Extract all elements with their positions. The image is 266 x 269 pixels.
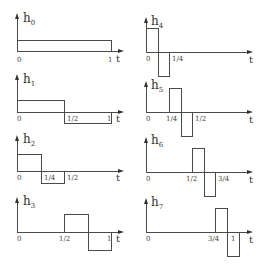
origin-label: 0 xyxy=(146,115,150,123)
plot-label: h0 xyxy=(23,11,35,27)
origin-label: 0 xyxy=(17,174,21,182)
tick-label: 1/4 xyxy=(166,115,178,123)
plot-h0: h0 0 1 t xyxy=(15,11,124,64)
t-axis-label: t xyxy=(116,113,120,124)
plot-h5: h5 0 1/4 1/2 t xyxy=(144,78,253,136)
t-axis-label: t xyxy=(249,114,253,125)
y-axis-arrow-icon xyxy=(144,81,148,87)
tick-label: 1/4 xyxy=(172,55,184,63)
plot-label: h2 xyxy=(23,132,35,148)
tick-label: 3/4 xyxy=(218,175,230,183)
tick-label: 1 xyxy=(107,115,111,123)
tick-label: 1 xyxy=(108,56,112,64)
plot-h2: h2 0 1/4 1/2 t xyxy=(15,132,124,183)
tick-label: 3/4 xyxy=(208,235,220,243)
plot-h7: h7 0 3/4 1 t xyxy=(144,195,253,256)
origin-label: 0 xyxy=(17,115,21,123)
plot-label: h6 xyxy=(151,133,164,149)
plot-label: h1 xyxy=(23,72,35,88)
y-axis-arrow-icon xyxy=(144,17,148,23)
t-axis-label: t xyxy=(249,174,253,185)
plot-label: h4 xyxy=(151,14,164,30)
plot-label: h3 xyxy=(23,194,35,210)
plot-h3: h3 0 1/2 1 t xyxy=(15,194,124,250)
plot-h6: h6 0 1/2 3/4 t xyxy=(144,133,253,196)
y-axis-arrow-icon xyxy=(144,137,148,143)
origin-label: 0 xyxy=(146,235,150,243)
y-axis-arrow-icon xyxy=(15,197,19,203)
tick-label: 1/2 xyxy=(59,235,70,243)
plot-label: h7 xyxy=(151,195,163,211)
origin-label: 0 xyxy=(146,55,150,63)
tick-label: 1 xyxy=(107,235,111,243)
t-axis-label: t xyxy=(116,233,120,244)
plot-h4: h4 0 1/4 t xyxy=(144,14,253,76)
y-axis-arrow-icon xyxy=(15,74,19,80)
t-axis-label: t xyxy=(116,172,120,183)
origin-label: 0 xyxy=(17,56,21,64)
tick-label: 1/4 xyxy=(44,174,56,182)
tick-label: 1/2 xyxy=(195,115,206,123)
plot-h1: h1 0 1/2 1 t xyxy=(15,72,124,124)
waveform xyxy=(17,154,64,183)
tick-label: 1 xyxy=(231,235,235,243)
origin-label: 0 xyxy=(17,235,21,243)
haar-basis-diagram: h0 0 1 t h1 0 1/2 1 t h2 0 1/4 1/2 t h3 xyxy=(0,0,266,269)
plot-label: h5 xyxy=(151,78,163,94)
tick-label: 1/2 xyxy=(186,175,197,183)
waveform xyxy=(17,40,111,51)
tick-label: 1/2 xyxy=(67,174,78,182)
y-axis-arrow-icon xyxy=(15,135,19,141)
t-axis-label: t xyxy=(249,234,253,245)
y-axis-arrow-icon xyxy=(144,198,148,204)
y-axis-arrow-icon xyxy=(15,13,19,19)
origin-label: 0 xyxy=(146,175,150,183)
t-axis-label: t xyxy=(249,54,253,65)
tick-label: 1/2 xyxy=(67,115,78,123)
t-axis-label: t xyxy=(116,53,120,64)
